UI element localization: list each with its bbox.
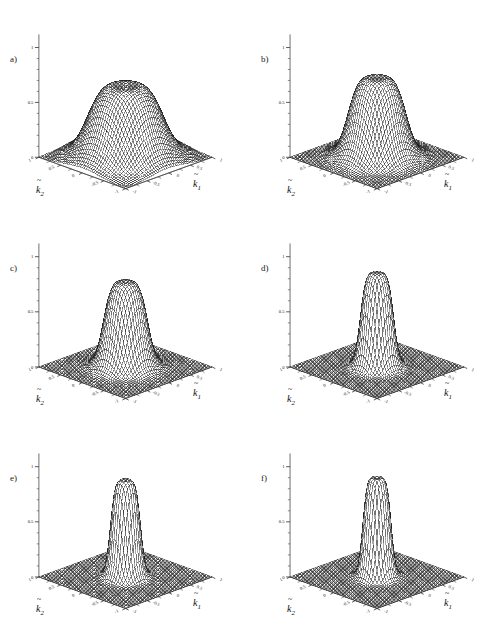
k2-tick-0: -1	[114, 188, 120, 194]
k2-tick-3: 0.5	[299, 374, 307, 381]
k2-tick-3: 0.5	[48, 164, 56, 171]
k1-tick-4: 1	[219, 157, 224, 163]
panel-c: 00.51-1-0.500.51-1-0.500.51 c) k2 k1	[0, 221, 251, 431]
panel-letter-f: f)	[261, 473, 267, 483]
k2-sub-f: 2	[291, 609, 295, 617]
z-tick-0.5: 0.5	[28, 519, 34, 524]
k1-tick-2: 0	[428, 383, 433, 389]
axis-label-k2-d: k2	[287, 393, 295, 407]
k1-tick-1: -0.5	[152, 390, 161, 398]
z-tick-1: 1	[282, 254, 285, 259]
k1-tick-2: 0	[176, 383, 181, 389]
axis-label-k1-d: k1	[444, 387, 452, 401]
mesh-surface	[39, 81, 212, 189]
k2-tick-2: 0	[71, 382, 76, 388]
k1-tick-0: -1	[132, 188, 138, 194]
k2-tick-2: 0	[322, 592, 327, 598]
k1-tick-2: 0	[428, 593, 433, 599]
k2-tilde-c: k	[36, 393, 40, 404]
panel-b: 00.51-1-0.500.51-1-0.500.51 b) k2 k1	[251, 12, 503, 221]
panel-letter-d: d)	[261, 263, 269, 273]
z-tick-0.5: 0.5	[279, 100, 285, 105]
k1-tick-1: -0.5	[152, 600, 161, 608]
axis-label-k2-c: k2	[36, 393, 44, 407]
k2-tilde-d: k	[287, 393, 291, 404]
k2-tick-2: 0	[322, 173, 327, 179]
k2-tick-3: 0.5	[299, 584, 307, 591]
k1-tick-1: -0.5	[403, 390, 412, 398]
k1-tick-1: -0.5	[403, 180, 412, 188]
z-tick-0: 0	[31, 155, 34, 160]
k1-tick-4: 1	[471, 367, 476, 373]
axis-label-k2-b: k2	[287, 184, 295, 198]
k2-tick-0: -1	[114, 608, 120, 614]
k1-sub-c: 1	[197, 393, 201, 401]
z-tick-0.5: 0.5	[28, 309, 34, 314]
k1-tilde-d: k	[444, 387, 448, 398]
k1-tilde-c: k	[193, 387, 197, 398]
k1-tick-0: -1	[383, 188, 389, 194]
z-tick-0.5: 0.5	[28, 100, 34, 105]
k1-tilde-a: k	[193, 178, 197, 189]
axis-label-k2-e: k2	[36, 603, 44, 617]
z-tick-0: 0	[282, 575, 285, 580]
mesh-surface	[39, 280, 212, 399]
axis-label-k2-f: k2	[287, 603, 295, 617]
k1-sub-b: 1	[448, 184, 452, 192]
z-tick-0: 0	[31, 365, 34, 370]
mesh-surface	[290, 476, 464, 609]
k1-tick-4: 1	[471, 157, 476, 163]
k1-tick-1: -0.5	[152, 180, 161, 188]
panel-d: 00.51-1-0.500.51-1-0.500.51 d) k2 k1	[251, 221, 503, 431]
k2-tick-2: 0	[71, 173, 76, 179]
k2-sub-c: 2	[40, 399, 44, 407]
axis-label-k2-a: k2	[36, 184, 44, 198]
k2-tick-2: 0	[71, 592, 76, 598]
k2-sub-e: 2	[40, 609, 44, 617]
k1-sub-f: 1	[448, 603, 452, 611]
z-tick-0: 0	[282, 155, 285, 160]
axis-label-k1-e: k1	[193, 597, 201, 611]
k1-sub-d: 1	[448, 393, 452, 401]
z-tick-0.5: 0.5	[279, 519, 285, 524]
k2-sub-a: 2	[40, 190, 44, 198]
k2-tick-1: -0.5	[342, 599, 351, 607]
k2-sub-d: 2	[291, 399, 295, 407]
k1-tick-0: -1	[383, 608, 389, 614]
panel-letter-b: b)	[261, 54, 269, 64]
k1-sub-a: 1	[197, 184, 201, 192]
z-tick-1: 1	[282, 464, 285, 469]
k2-tick-0: -1	[365, 188, 371, 194]
k1-sub-e: 1	[197, 603, 201, 611]
z-tick-0: 0	[31, 575, 34, 580]
z-tick-1: 1	[282, 45, 285, 50]
k2-tick-1: -0.5	[342, 389, 351, 397]
k2-tick-0: -1	[365, 398, 371, 404]
k2-tilde-b: k	[287, 184, 291, 195]
axis-label-k1-a: k1	[193, 178, 201, 192]
k1-tick-4: 1	[219, 367, 224, 373]
mesh-surface	[290, 74, 464, 188]
k2-tick-0: -1	[365, 608, 371, 614]
panel-f: 00.51-1-0.500.51-1-0.500.51 f) k2 k1	[251, 431, 503, 641]
panel-letter-e: e)	[10, 473, 17, 483]
k2-tick-1: -0.5	[342, 180, 351, 188]
k1-tick-0: -1	[132, 608, 138, 614]
page-ghost-text	[0, 0, 503, 12]
z-tick-0: 0	[282, 365, 285, 370]
axis-label-k1-f: k1	[444, 597, 452, 611]
panel-e: 00.51-1-0.500.51-1-0.500.51 e) k2 k1	[0, 431, 251, 641]
k1-tick-2: 0	[428, 173, 433, 179]
mesh-surface	[290, 271, 464, 398]
k1-tick-4: 1	[471, 577, 476, 583]
k1-tick-0: -1	[132, 398, 138, 404]
k2-tick-3: 0.5	[48, 374, 56, 381]
k1-tick-1: -0.5	[403, 600, 412, 608]
mesh-surface	[39, 479, 212, 609]
panel-grid: 00.51-1-0.500.51-1-0.500.51 a) k2 k1 00.…	[0, 12, 503, 641]
k2-tick-3: 0.5	[48, 584, 56, 591]
k2-tick-1: -0.5	[90, 389, 99, 397]
k2-tilde-f: k	[287, 603, 291, 614]
k2-tick-2: 0	[322, 382, 327, 388]
k2-tick-0: -1	[114, 398, 120, 404]
